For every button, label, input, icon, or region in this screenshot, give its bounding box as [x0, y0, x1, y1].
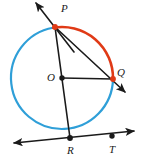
radius-O-Q [62, 78, 113, 79]
point-dot-r [67, 135, 73, 141]
point-dot-o [59, 75, 64, 80]
point-dot-q [110, 76, 116, 82]
geometry-canvas: PQORT [0, 0, 141, 159]
point-label-o: O [47, 71, 55, 83]
segments-group [14, 3, 134, 143]
point-label-r: R [66, 144, 74, 156]
geometry-figure: PQORT [0, 0, 141, 159]
point-dot-p [52, 24, 58, 30]
point-label-q: Q [117, 66, 125, 78]
point-label-t: T [109, 143, 116, 155]
point-dot-t [109, 133, 114, 138]
point-label-p: P [60, 2, 68, 14]
tangent-line-R-T [14, 131, 134, 143]
